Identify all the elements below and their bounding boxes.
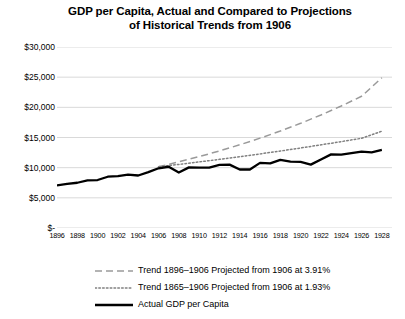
x-axis-tick-label: 1906 <box>151 231 166 241</box>
x-axis-tick-label: 1924 <box>334 231 349 241</box>
x-axis-tick-label: 1912 <box>212 231 227 241</box>
x-axis-tick-label: 1900 <box>90 231 105 241</box>
y-axis-tick-label: $- <box>3 224 55 233</box>
legend-swatch-dotted <box>95 283 133 293</box>
x-axis-tick-label: 1916 <box>252 231 267 241</box>
y-axis-tick-label: $15,000 <box>3 133 55 142</box>
legend-item[interactable]: Trend 1896–1906 Projected from 1906 at 3… <box>95 262 395 279</box>
x-axis: 1896189819001902190419061908191019121914… <box>57 231 392 245</box>
x-axis-tick-label: 1910 <box>192 231 207 241</box>
legend-label: Actual GDP per Capita <box>138 299 229 310</box>
gdp-chart: GDP per Capita, Actual and Compared to P… <box>0 0 405 319</box>
chart-legend: Trend 1896–1906 Projected from 1906 at 3… <box>95 262 395 313</box>
x-axis-tick-label: 1904 <box>131 231 146 241</box>
chart-title-line1: GDP per Capita, Actual and Compared to P… <box>40 4 380 18</box>
x-axis-tick-label: 1914 <box>232 231 247 241</box>
legend-label: Trend 1865–1906 Projected from 1906 at 1… <box>138 282 330 293</box>
y-axis-tick-label: $5,000 <box>3 193 55 202</box>
legend-label: Trend 1896–1906 Projected from 1906 at 3… <box>138 265 330 276</box>
x-axis-tick-label: 1898 <box>70 231 85 241</box>
legend-swatch-dashed <box>95 266 133 276</box>
x-axis-tick-label: 1922 <box>313 231 328 241</box>
legend-swatch-solid <box>95 300 133 310</box>
y-axis-tick-label: $25,000 <box>3 73 55 82</box>
chart-title: GDP per Capita, Actual and Compared to P… <box>40 4 380 32</box>
x-axis-tick-label: 1928 <box>374 231 389 241</box>
x-axis-tick-label: 1896 <box>49 231 64 241</box>
series-line <box>159 131 382 167</box>
x-axis-tick-label: 1908 <box>171 231 186 241</box>
x-axis-tick-label: 1902 <box>110 231 125 241</box>
plot-area <box>57 47 392 228</box>
y-axis: $30,000$25,000$20,000$15,000$10,000$5,00… <box>0 0 55 319</box>
legend-item[interactable]: Actual GDP per Capita <box>95 296 395 313</box>
y-axis-tick-label: $10,000 <box>3 163 55 172</box>
chart-title-line2: of Historical Trends from 1906 <box>40 18 380 32</box>
x-axis-tick-label: 1920 <box>293 231 308 241</box>
x-axis-tick-label: 1926 <box>354 231 369 241</box>
series-lines <box>57 78 382 186</box>
gridlines <box>57 47 392 228</box>
y-axis-tick-label: $20,000 <box>3 103 55 112</box>
legend-item[interactable]: Trend 1865–1906 Projected from 1906 at 1… <box>95 279 395 296</box>
plot-svg <box>57 47 392 228</box>
x-axis-tick-label: 1918 <box>273 231 288 241</box>
y-axis-tick-label: $30,000 <box>3 43 55 52</box>
